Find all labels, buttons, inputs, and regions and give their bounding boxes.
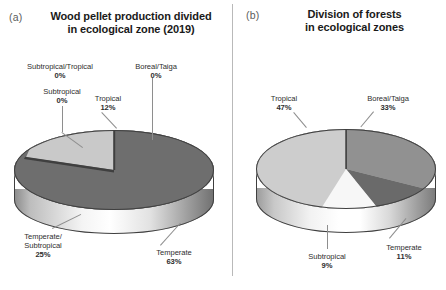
panel-b-title-line1: Division of forests <box>307 8 401 20</box>
label-b-subtropical: Subtropical 9% <box>292 252 362 270</box>
pie-chart-b <box>256 129 436 233</box>
label-a-temperate-subtropical: Temperate/ Subtropical 25% <box>2 232 84 260</box>
pie-b-top <box>256 129 436 209</box>
panel-a-title-line2: in ecological zone (2019) <box>36 23 226 36</box>
panel-b-title-line2: in ecological zones <box>272 21 437 34</box>
panel-a: (a) Wood pellet production divided in ec… <box>0 0 232 290</box>
label-a-subtropical-tropical: Subtropical/Tropical 0% <box>6 62 114 80</box>
leader-b-boreal <box>360 111 374 127</box>
panel-a-marker: (a) <box>9 11 22 23</box>
panel-a-title-line1: Wood pellet production divided <box>50 10 211 22</box>
label-a-boreal: Boreal/Taiga 0% <box>120 62 192 80</box>
figure-container: (a) Wood pellet production divided in ec… <box>0 0 446 290</box>
leader-a-tropical <box>101 112 117 129</box>
panel-a-title: Wood pellet production divided in ecolog… <box>36 10 226 36</box>
panel-b: (b) Division of forests in ecological zo… <box>232 0 446 290</box>
panel-b-title: Division of forests in ecological zones <box>272 8 437 34</box>
pie-a-top <box>14 130 214 210</box>
label-b-tropical: Tropical 47% <box>256 94 312 112</box>
label-a-temperate: Temperate 63% <box>140 248 208 266</box>
pie-chart-a <box>14 130 214 234</box>
leader-a-subtropical <box>62 106 63 132</box>
leader-b-tropical <box>293 112 307 128</box>
figure-watermark <box>212 272 256 278</box>
label-a-tropical: Tropical 12% <box>80 94 136 112</box>
label-b-boreal: Boreal/Taiga 33% <box>352 94 424 112</box>
panel-b-marker: (b) <box>246 9 259 21</box>
leader-b-subtropical <box>327 225 328 249</box>
label-b-temperate: Temperate 11% <box>372 243 436 261</box>
leader-a-boreal <box>152 78 153 140</box>
